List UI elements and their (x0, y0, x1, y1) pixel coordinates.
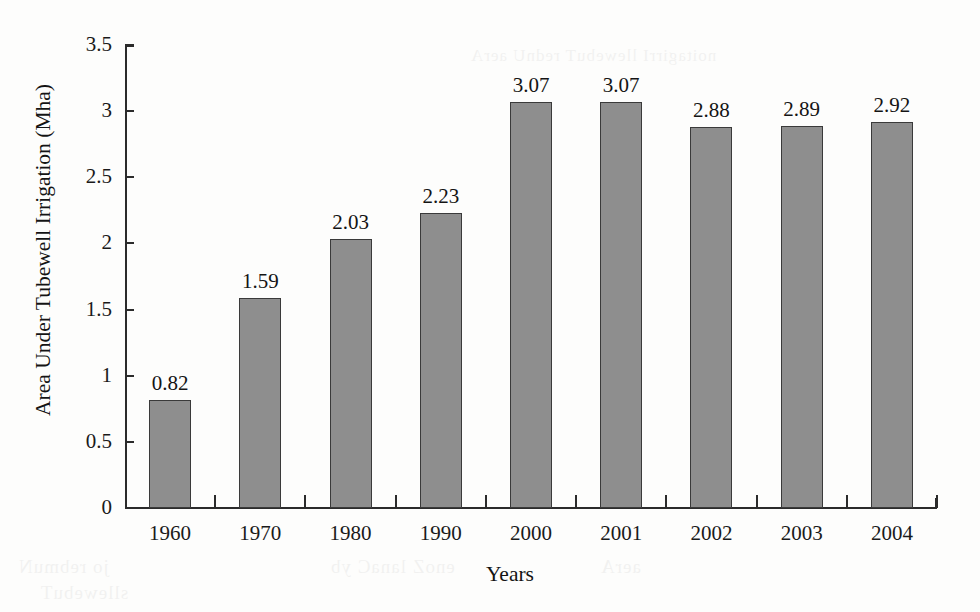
bar-value-label: 3.07 (566, 74, 676, 96)
bar-value-label: 0.82 (115, 372, 225, 394)
y-axis-tick-label: 0.5 (0, 431, 112, 452)
y-axis-tick (125, 44, 134, 46)
y-axis-tick (125, 242, 134, 244)
x-axis-tick (304, 495, 306, 508)
chart-page: jo rebmuN enoZ lanaC yb aerA sllewebuT n… (0, 0, 980, 612)
y-axis-line (125, 45, 127, 509)
bar (600, 102, 642, 508)
x-axis-tick-label: 2002 (661, 521, 761, 545)
y-axis-tick-label: 2.5 (0, 166, 112, 187)
x-axis-tick (485, 495, 487, 508)
x-axis-tick-label: 2000 (481, 521, 581, 545)
x-axis-tick (665, 495, 667, 508)
y-axis-tick (125, 176, 134, 178)
x-axis-tick-label: 2004 (842, 521, 942, 545)
y-axis-tick-label: 1.5 (0, 299, 112, 320)
x-axis-tick-label: 2003 (752, 521, 852, 545)
scan-bleed-artifact: noitagirrI llewebuT rednU aerA (470, 46, 716, 66)
x-axis-tick-label: 1970 (210, 521, 310, 545)
y-axis-tick-label: 1 (0, 365, 112, 386)
y-axis-tick-label: 2 (0, 232, 112, 253)
bar (420, 213, 462, 508)
bar (330, 239, 372, 508)
y-axis-tick-label: 3 (0, 100, 112, 121)
y-axis-tick (125, 110, 134, 112)
bar (510, 102, 552, 508)
y-axis-tick (125, 507, 134, 509)
scan-bleed-artifact: jo rebmuN (18, 556, 109, 578)
bar-value-label: 2.92 (837, 94, 947, 116)
bar-value-label: 1.59 (205, 270, 315, 292)
y-axis-title: Area Under Tubewell Irrigation (Mha) (31, 40, 55, 460)
y-axis-tick (125, 441, 134, 443)
bar (690, 127, 732, 508)
y-axis-tick (125, 309, 134, 311)
x-axis-tick (214, 495, 216, 508)
bar-value-label: 2.03 (296, 211, 406, 233)
x-axis-tick (395, 495, 397, 508)
y-axis-tick-label: 3.5 (0, 34, 112, 55)
bar (149, 400, 191, 508)
bar (871, 122, 913, 508)
x-axis-tick-label: 1960 (120, 521, 220, 545)
x-axis-tick-label: 1990 (391, 521, 491, 545)
x-axis-tick-label: 2001 (571, 521, 671, 545)
bar-value-label: 2.23 (386, 185, 496, 207)
x-axis-title: Years (430, 562, 590, 586)
x-axis-tick (936, 495, 938, 508)
bar (781, 126, 823, 508)
scan-bleed-artifact: aerA (600, 556, 641, 578)
x-axis-tick (756, 495, 758, 508)
x-axis-tick (575, 495, 577, 508)
x-axis-tick-label: 1980 (301, 521, 401, 545)
y-axis-tick-label: 0 (0, 497, 112, 518)
scan-bleed-artifact: sllewebuT (40, 582, 128, 604)
x-axis-tick (846, 495, 848, 508)
bar (239, 298, 281, 508)
